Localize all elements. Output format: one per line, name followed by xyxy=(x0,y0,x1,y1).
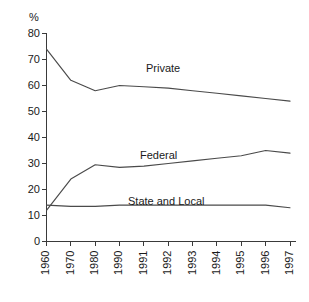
y-tick-label: 10 xyxy=(28,209,40,221)
x-tick-label: 1991 xyxy=(137,251,149,275)
x-tick-label: 1960 xyxy=(39,251,51,275)
x-tick-label: 1980 xyxy=(88,251,100,275)
x-tick-label: 1995 xyxy=(234,250,246,274)
series-label-state-and-local: State and Local xyxy=(128,195,204,207)
series-label-private: Private xyxy=(146,62,180,74)
y-tick-label: 20 xyxy=(28,183,40,195)
x-axis-ticks: 1960197019801990199119921993199419951996… xyxy=(39,242,295,275)
x-tick-label: 1970 xyxy=(64,251,76,275)
y-tick-label: 30 xyxy=(28,157,40,169)
x-tick-label: 1994 xyxy=(210,251,222,275)
y-tick-label: 0 xyxy=(34,235,40,247)
series-label-federal: Federal xyxy=(140,149,177,161)
y-tick-label: 80 xyxy=(28,27,40,39)
x-tick-label: 1992 xyxy=(161,251,173,275)
y-tick-label: 50 xyxy=(28,105,40,117)
x-tick-label: 1990 xyxy=(112,251,124,275)
y-tick-label: 60 xyxy=(28,79,40,91)
x-tick-label: 1993 xyxy=(186,251,198,275)
line-chart: % 80 70 60 50 40 30 20 10 0 xyxy=(0,0,309,302)
y-tick-label: 70 xyxy=(28,53,40,65)
y-axis-ticks: 80 70 60 50 40 30 20 10 0 xyxy=(28,27,47,247)
y-tick-label: 40 xyxy=(28,131,40,143)
series-line-private xyxy=(47,49,291,101)
x-tick-label: 1996 xyxy=(259,251,271,275)
x-tick-label: 1997 xyxy=(283,251,295,275)
y-axis-unit-label: % xyxy=(29,11,39,23)
chart-canvas: % 80 70 60 50 40 30 20 10 0 xyxy=(0,0,309,302)
